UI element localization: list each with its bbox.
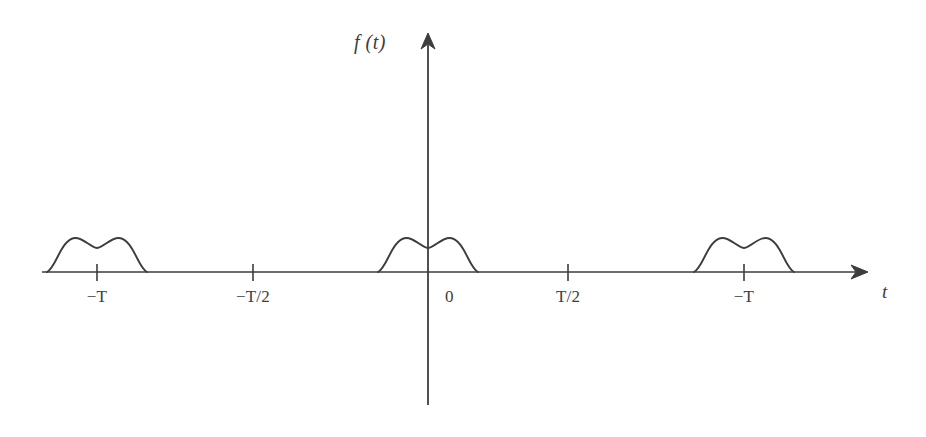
plot-canvas xyxy=(0,0,926,437)
tick-label-minus-t-left: −T xyxy=(87,288,107,305)
x-axis-label: t xyxy=(882,282,887,301)
tick-label-minus-t-half: −T/2 xyxy=(236,288,270,305)
function-label: f (t) xyxy=(354,32,386,52)
waveform-figure: f (t) t −T −T/2 0 T/2 −T xyxy=(0,0,926,437)
tick-label-t-half: T/2 xyxy=(556,288,580,305)
y-axis xyxy=(421,33,435,405)
waveform-pulses xyxy=(47,238,794,272)
tick-label-zero: 0 xyxy=(445,288,454,305)
tick-label-minus-t-right: −T xyxy=(734,288,754,305)
